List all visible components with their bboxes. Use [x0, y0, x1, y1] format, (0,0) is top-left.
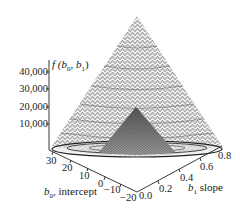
z-axis-label: f (b0, b1) [52, 59, 89, 73]
b1-tick-0.0: 0.0 [139, 191, 152, 202]
b1-tick-0.2: 0.2 [159, 184, 172, 195]
b0-axis-label: b0, intercept [44, 186, 97, 200]
b1-axis-label: b1 slope [188, 182, 223, 196]
b0-tick-20: 20 [62, 163, 73, 174]
z-tick-40000: 40,000 [19, 67, 48, 78]
b1-tick-0.8: 0.8 [218, 151, 231, 162]
b0-tick-neg20: −20 [120, 193, 136, 204]
b0-tick-30: 30 [46, 156, 57, 167]
b1-tick-0.6: 0.6 [200, 162, 213, 173]
z-tick-20000: 20,000 [19, 102, 48, 113]
z-tick-10000: 10,000 [19, 119, 48, 130]
b0-tick-10: 10 [79, 171, 90, 182]
z-tick-30000: 30,000 [19, 84, 48, 95]
b0-tick-0: 0 [98, 179, 103, 190]
b0-tick-neg10: −10 [104, 185, 120, 196]
